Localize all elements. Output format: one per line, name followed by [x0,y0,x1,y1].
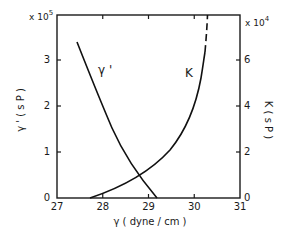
x-tick-29: 29 [142,201,155,212]
k-curve-label: K [185,66,194,80]
y-right-tick-0: 0 [244,192,250,203]
y-left-tick-2: 2 [44,100,50,111]
y-left-tick-1: 1 [44,146,50,157]
x-tick-30: 30 [188,201,201,212]
chart: 27 28 29 30 31 γ ( dyne / cm ) 0 1 2 3 x… [0,0,290,234]
series-k-curve-dashed [205,15,208,52]
plot-frame [57,15,240,198]
x-axis-label: γ ( dyne / cm ) [114,216,187,227]
y-left-tick-3: 3 [44,54,50,65]
x-ticks [103,15,195,198]
y-right-multiplier: x 104 [245,15,270,28]
y-right-tick-6: 6 [244,54,250,65]
y-right-tick-2: 2 [244,146,250,157]
x-tick-27: 27 [51,201,64,212]
y-left-multiplier: x 105 [29,9,53,22]
x-tick-28: 28 [96,201,109,212]
series-gamma-prime-curve [77,42,157,198]
y-right-tick-4: 4 [244,100,250,111]
y-left-tick-0: 0 [44,192,50,203]
y-left-axis-label: γ ' ( s P ) [15,88,26,132]
y-right-axis-label: K ( s P ) [263,101,274,139]
gamma-prime-curve-label: γ ' [98,63,112,77]
